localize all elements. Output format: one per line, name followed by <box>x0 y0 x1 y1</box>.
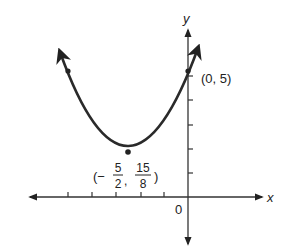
svg-text:(−: (− <box>93 169 105 184</box>
y-axis-label: y <box>182 11 191 26</box>
svg-text:15: 15 <box>136 161 150 175</box>
point-left <box>65 68 70 73</box>
svg-text:2: 2 <box>115 177 122 191</box>
parabola-curve <box>60 48 198 146</box>
x-ticks <box>68 192 164 197</box>
svg-text:,: , <box>124 174 127 188</box>
parabola-chart: y x 0 (0, 5) (− 5 2 , 15 8 ) <box>0 0 285 252</box>
svg-text:8: 8 <box>140 177 147 191</box>
vertex-label: (− 5 2 , 15 8 ) <box>93 161 158 191</box>
y-ticks <box>188 76 193 173</box>
intercept-label: (0, 5) <box>201 71 231 86</box>
y-intercept-point <box>185 68 190 73</box>
vertex-point <box>125 149 131 155</box>
x-axis-label: x <box>266 190 274 205</box>
svg-text:5: 5 <box>115 161 122 175</box>
origin-label: 0 <box>175 202 182 217</box>
svg-text:): ) <box>154 169 158 184</box>
